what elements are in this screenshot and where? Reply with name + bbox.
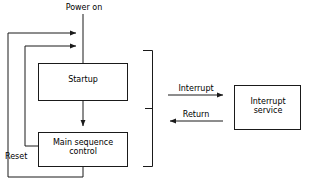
outer-reset-loop (8, 33, 83, 177)
inner-restart-loop (25, 46, 76, 146)
diagram-canvas: Startup Main sequencecontrol Interruptse… (0, 0, 310, 190)
flow-connectors (8, 14, 223, 177)
startup-box (39, 64, 128, 101)
diagram-vector-layer (0, 0, 310, 190)
node-boxes (39, 64, 301, 167)
interrupt-service-box (235, 86, 301, 130)
main-sequence-box (39, 133, 128, 167)
